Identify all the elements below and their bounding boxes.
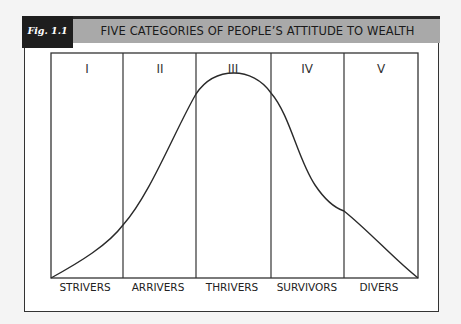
segment-numeral-2: II: [130, 62, 190, 76]
segment-numeral-4: IV: [277, 62, 337, 76]
segment-numeral-3: III: [203, 62, 263, 76]
bell-curve-diagram: [0, 0, 461, 324]
chart-box: [51, 53, 418, 278]
segment-label-divers: DIVERS: [339, 281, 419, 293]
segment-numeral-1: I: [57, 62, 117, 76]
bell-curve: [51, 73, 418, 278]
segment-label-arrivers: ARRIVERS: [118, 281, 198, 293]
segment-label-survivors: SURVIVORS: [267, 281, 347, 293]
segment-numeral-5: V: [351, 62, 411, 76]
segment-label-strivers: STRIVERS: [45, 281, 125, 293]
segment-label-thrivers: THRIVERS: [192, 281, 272, 293]
